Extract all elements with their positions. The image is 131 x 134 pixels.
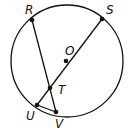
chord-rv xyxy=(32,20,56,112)
label-v: V xyxy=(55,117,64,131)
label-r: R xyxy=(25,3,33,17)
label-s: S xyxy=(106,3,114,17)
point-v xyxy=(54,110,59,115)
segment-uv xyxy=(37,105,56,112)
point-u xyxy=(35,103,40,108)
point-t xyxy=(48,86,53,91)
label-t: T xyxy=(58,83,67,97)
point-r xyxy=(30,18,35,23)
label-u: U xyxy=(26,109,35,123)
circle-diagram: R S O T U V xyxy=(0,0,131,134)
label-o: O xyxy=(65,44,74,58)
point-o xyxy=(64,59,69,64)
point-s xyxy=(100,17,105,22)
chord-su xyxy=(37,19,102,105)
